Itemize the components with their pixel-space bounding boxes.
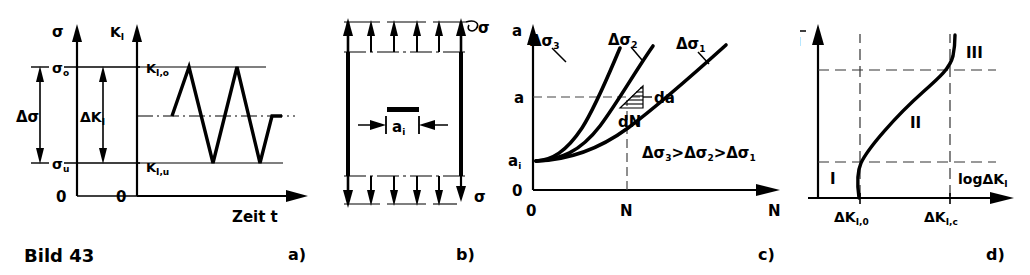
panel-a-sigma-zero: 0 (56, 188, 66, 206)
axis-arrow-icon (756, 184, 780, 196)
panel-d-tick-critical: ΔKI,c (924, 209, 958, 227)
crack-mark (387, 107, 419, 112)
bottom-load-arrows (343, 176, 466, 208)
plate-body (344, 52, 465, 176)
panel-b-tag: b) (456, 245, 475, 264)
arrow-down-icon (99, 148, 107, 164)
panel-a-x-axis-label: Zeit t (232, 208, 278, 226)
region-label-I: I (830, 170, 836, 188)
curve-label-delta-sigma-3: Δσ3 (530, 32, 560, 51)
axis-arrow-icon (132, 24, 142, 42)
curve-label-delta-sigma-2: Δσ2 (608, 31, 638, 50)
panel-a-ki-o-tick: KI,o (146, 61, 169, 78)
arrow-up-icon (36, 66, 44, 82)
label-da: da (654, 89, 675, 107)
panel-a-time-axis (137, 190, 308, 202)
axis-arrow-icon (72, 24, 82, 42)
arrow-right-icon (370, 120, 386, 130)
panel-c-construction-lines (533, 97, 640, 190)
panel-a-ki-axis (99, 24, 142, 196)
panel-a-tag: a) (288, 245, 306, 264)
panel-c-tick-N: N (620, 202, 633, 220)
panel-a-sigma-u-tick: σu (52, 156, 69, 174)
panel-b-sigma-top-label: σ (478, 19, 490, 37)
curve-delta-sigma-3 (536, 48, 620, 161)
panel-d-tag: d) (986, 245, 1005, 264)
panel-d-y-axis-label: log da dN (800, 15, 806, 49)
panel-b-crack-length-label: ai (392, 118, 405, 137)
panel-d-x-axis-label: logΔKI (958, 171, 1007, 189)
panel-c-tick-a: a (514, 89, 524, 107)
panel-c-y-axis-label: a (512, 22, 522, 40)
axis-arrow-icon (286, 190, 308, 202)
panel-b-sigma-bottom-label: σ (474, 188, 486, 206)
top-load-arrows (343, 18, 478, 52)
figure-bild-43: σ σo σu Δσ 0 KI KI,o KI,u ΔKI 0 Zeit t a… (0, 0, 1030, 275)
panel-c-tick-ai: ai (508, 152, 521, 171)
figure-caption: Bild 43 (24, 245, 94, 266)
arrow-up-icon (99, 66, 107, 82)
panel-c-y-zero: 0 (512, 182, 522, 200)
panel-a-delta-ki-label: ΔKI (80, 109, 105, 127)
axis-arrow-icon (990, 192, 1014, 204)
panel-c: a a ai 0 0 N N Δσ3 Δσ2 Δσ1 da dN Δσ3>Δσ2… (490, 0, 830, 275)
cyclic-load-waveform (172, 67, 282, 163)
arrow-left-icon (419, 120, 435, 130)
curve-label-delta-sigma-1: Δσ1 (676, 35, 706, 54)
panel-d: log da dN I II III (800, 0, 1030, 275)
sigmoidal-growth-curve (858, 35, 955, 198)
panel-a: σ σo σu Δσ 0 KI KI,o KI,u ΔKI 0 Zeit t a… (0, 0, 330, 275)
panel-d-tick-threshold: ΔKI,0 (834, 209, 869, 227)
panel-c-tag: c) (758, 245, 775, 264)
panel-c-x-zero: 0 (526, 202, 536, 220)
region-label-III: III (966, 44, 983, 62)
svg-text:dN: dN (800, 34, 801, 49)
panel-c-x-axis-label: N (768, 202, 781, 220)
sigma-leader-icon (466, 21, 478, 31)
panel-a-delta-sigma-label: Δσ (16, 108, 39, 126)
panel-b: σ σ ai b) (330, 0, 500, 275)
panel-c-inequality: Δσ3>Δσ2>Δσ1 (642, 144, 756, 163)
axis-arrow-icon (812, 24, 824, 45)
panel-a-sigma-title: σ (52, 23, 64, 41)
panel-a-ki-title: KI (110, 24, 124, 42)
panel-a-sigma-o-tick: σo (52, 60, 69, 78)
panel-a-ki-zero: 0 (116, 188, 126, 206)
region-label-II: II (910, 114, 921, 132)
label-dn: dN (618, 113, 641, 131)
arrow-down-icon (36, 148, 44, 164)
